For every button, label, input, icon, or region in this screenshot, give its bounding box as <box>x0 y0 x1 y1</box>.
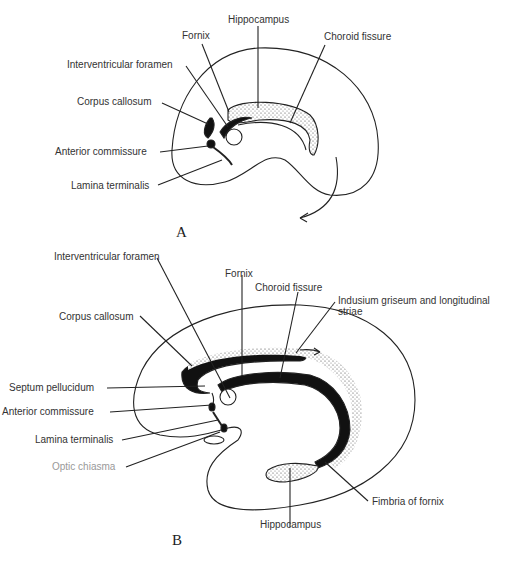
label-b-indusium-line2: striae <box>338 307 362 317</box>
label-b-hippocampus: Hippocampus <box>260 520 321 530</box>
panel-a-letter: A <box>176 224 187 241</box>
label-a-hippocampus: Hippocampus <box>228 15 289 25</box>
label-b-indusium-line1: Indusium griseum and longitudinal <box>338 296 490 306</box>
label-a-lamina-terminalis: Lamina terminalis <box>71 181 149 191</box>
label-b-septum-pellucidum: Septum pellucidum <box>9 383 94 393</box>
fornix-b <box>218 372 350 468</box>
label-b-fimbria-of-fornix: Fimbria of fornix <box>372 497 444 507</box>
hippocampus-band-a <box>228 102 318 155</box>
panel-b-letter: B <box>172 532 182 549</box>
label-b-choroid-fissure: Choroid fissure <box>255 283 322 293</box>
label-a-anterior-commissure: Anterior commissure <box>55 147 147 157</box>
label-b-anterior-commissure: Anterior commissure <box>2 407 94 417</box>
label-a-fornix: Fornix <box>182 31 210 41</box>
label-b-lamina-terminalis: Lamina terminalis <box>35 435 113 445</box>
label-b-optic-chiasma: Optic chiasma <box>52 462 115 472</box>
label-b-fornix: Fornix <box>225 269 253 279</box>
label-b-interventricular-foramen: Interventricular foramen <box>54 252 160 262</box>
hippocampus-b <box>266 463 318 482</box>
label-a-interventricular-foramen: Interventricular foramen <box>67 60 173 70</box>
panel-a-drawing <box>158 26 378 222</box>
label-b-corpus-callosum: Corpus callosum <box>59 312 133 322</box>
label-a-choroid-fissure: Choroid fissure <box>324 32 391 42</box>
diagram-drawing <box>0 0 515 561</box>
corpus-callosum-a <box>204 118 214 138</box>
temporal-arrow-a <box>300 157 338 218</box>
label-a-corpus-callosum: Corpus callosum <box>77 97 151 107</box>
